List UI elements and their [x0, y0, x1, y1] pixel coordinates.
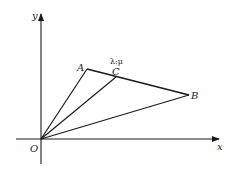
point-A-label: A [76, 62, 84, 73]
segment-OB [41, 95, 189, 139]
x-axis-label: x [217, 141, 223, 152]
segment-OC [41, 77, 116, 139]
diagram-svg: y x O A B C λ:μ [0, 0, 238, 174]
point-C-label: C [112, 66, 120, 77]
diagram-canvas: y x O A B C λ:μ [0, 0, 238, 174]
segment-AB [87, 69, 189, 95]
ratio-label: λ:μ [110, 57, 123, 66]
point-B-label: B [190, 90, 198, 101]
origin-label: O [30, 143, 38, 154]
segment-OA [41, 69, 87, 139]
y-axis-label: y [31, 10, 38, 21]
